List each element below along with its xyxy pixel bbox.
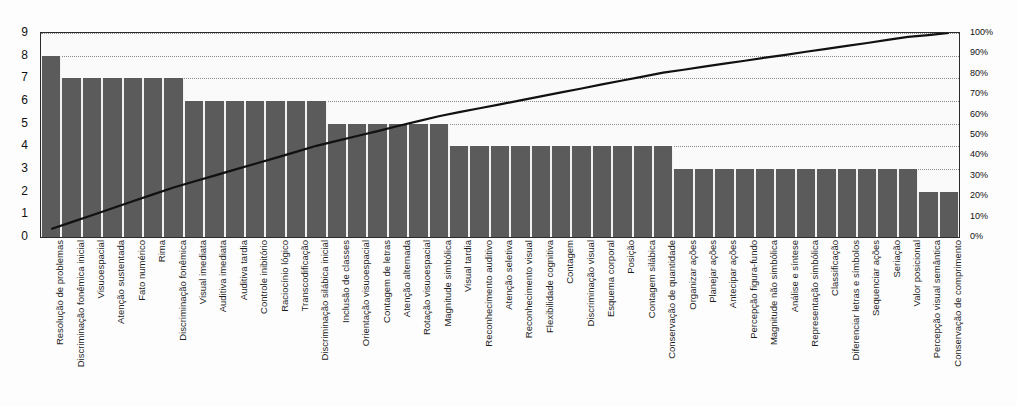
bar [204,101,224,237]
x-axis-label: Orientação visuoespacial [361,240,371,400]
x-axis-label: Planejar ações [708,240,718,400]
x-axis-label: Visual tardia [463,240,473,400]
x-axis-label: Atenção seletiva [504,240,514,400]
pareto-chart: 0123456789 0%10%20%30%40%50%60%70%80%90%… [0,0,1017,406]
bar [286,101,306,237]
bar [225,101,245,237]
bar [82,78,102,237]
bar [327,124,347,237]
y-axis-right-tick: 80% [970,68,988,77]
y-axis-left-tick: 5 [21,117,28,129]
x-axis-label: Valor posicional [912,240,922,400]
bar [388,124,408,237]
x-axis-label: Auditiva tardia [239,240,249,400]
bar [245,101,265,237]
bar [735,169,755,237]
x-axis-label: Magnitude não simbólica [769,240,779,400]
bar [449,146,469,237]
y-axis-left-tick: 1 [21,207,28,219]
x-axis-label: Contagem de letras [382,240,392,400]
y-axis-right-tick: 20% [970,191,988,200]
x-axis-label: Discriminação fonêmica inicial [76,240,86,400]
x-axis-label: Discriminação visual [586,240,596,400]
bar [306,101,326,237]
bar [61,78,81,237]
y-axis-left-tick: 6 [21,94,28,106]
x-axis-label: Percepção figura-fundo [749,240,759,400]
x-axis-label: Diferenciar letras e símbolos [851,240,861,400]
bar [816,169,836,237]
y-axis-right-tick: 30% [970,170,988,179]
bars-layer [41,33,959,237]
bar [796,169,816,237]
x-axis-label: Resolução de problemas [55,240,65,400]
y-axis-left-tick: 7 [21,71,28,83]
bar [633,146,653,237]
x-axis-label: Discriminação silábica inicial [320,240,330,400]
bar [837,169,857,237]
x-axis-category-labels: Resolução de problemasDiscriminação fonê… [41,240,959,404]
x-axis-label: Reconhecimento visual [524,240,534,400]
bar [653,146,673,237]
bar [102,78,122,237]
y-axis-left-tick: 3 [21,162,28,174]
x-axis-label: Raciocínio lógico [280,240,290,400]
x-axis-label: Conservação de comprimento [953,240,963,400]
x-axis-label: Rotação visuoespacial [422,240,432,400]
bar [265,101,285,237]
bar [429,124,449,237]
bar [184,101,204,237]
x-axis-label: Análise e síntese [790,240,800,400]
x-axis-label: Organizar ações [688,240,698,400]
bar [755,169,775,237]
bar [551,146,571,237]
y-axis-right-tick: 60% [970,109,988,118]
bar [877,169,897,237]
bar [123,78,143,237]
x-axis-label: Transcodificação [300,240,310,400]
bar [469,146,489,237]
bar [408,124,428,237]
x-axis-label: Flexibilidade cognitiva [545,240,555,400]
x-axis-label: Seriação [892,240,902,400]
y-axis-left-tick: 2 [21,185,28,197]
y-axis-left-tick: 0 [21,230,28,242]
x-axis-label: Visual imediata [198,240,208,400]
bar [592,146,612,237]
y-axis-right-tick: 0% [970,232,983,241]
bar [347,124,367,237]
y-axis-right-tick: 40% [970,150,988,159]
x-axis-label: Visuoespacial [96,240,106,400]
x-axis-label: Sequenciar ações [871,240,881,400]
x-axis-label: Classificação [830,240,840,400]
y-axis-left-tick: 4 [21,139,28,151]
bar [673,169,693,237]
bar [939,192,959,237]
y-axis-left: 0123456789 [0,32,34,238]
x-axis-label: Conservação de quantidade [667,240,677,400]
bar [41,56,61,237]
bar [918,192,938,237]
bar [490,146,510,237]
y-axis-right-tick: 50% [970,130,988,139]
x-axis-label: Posição [626,240,636,400]
bar [571,146,591,237]
y-axis-right-tick: 70% [970,89,988,98]
bar [694,169,714,237]
x-axis-label: Fato numérico [137,240,147,400]
y-axis-right: 0%10%20%30%40%50%60%70%80%90%100% [962,32,1014,238]
x-axis-label: Atenção sustentada [116,240,126,400]
x-axis-label: Reconhecimento auditivo [484,240,494,400]
bar [163,78,183,237]
x-axis-label: Auditiva imediata [218,240,228,400]
x-axis-label: Representação simbólica [810,240,820,400]
x-axis-label: Controle inibitório [259,240,269,400]
bar [143,78,163,237]
x-axis-label: Contagem silábica [647,240,657,400]
x-axis-label: Atenção alternada [402,240,412,400]
bar [714,169,734,237]
bar [898,169,918,237]
x-axis-label: Discriminação fonêmica [178,240,188,400]
bar [612,146,632,237]
bar [510,146,530,237]
